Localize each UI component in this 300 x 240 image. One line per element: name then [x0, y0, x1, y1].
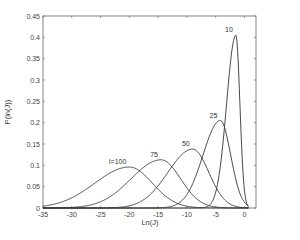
curve-label-50: 50 [182, 140, 190, 147]
x-tick-label: -25 [96, 211, 106, 218]
y-axis-ticks: 00.050.10.150.20.250.30.350.40.45 [26, 13, 256, 212]
y-axis-label: P(ln(J)) [3, 99, 12, 124]
x-tick-label: 0 [243, 211, 247, 218]
y-tick-label: 0.25 [26, 98, 40, 105]
y-tick-label: 0.35 [26, 55, 40, 62]
chart: -35-30-25-20-15-10-50 00.050.10.150.20.2… [0, 0, 300, 240]
y-tick-label: 0.2 [30, 119, 40, 126]
x-tick-label: -35 [38, 211, 48, 218]
curve-label-100: l=100 [109, 158, 126, 165]
curve-labels: 10255075l=100 [109, 26, 233, 165]
x-tick-label: -30 [67, 211, 77, 218]
y-tick-label: 0.15 [26, 141, 40, 148]
curve-label-75: 75 [150, 151, 158, 158]
x-tick-label: -20 [124, 211, 134, 218]
plot-frame [43, 16, 256, 208]
y-tick-label: 0.45 [26, 13, 40, 20]
x-axis-label: Ln(J) [141, 218, 159, 227]
y-tick-label: 0.1 [30, 162, 40, 169]
y-tick-label: 0.05 [26, 183, 40, 190]
curve-25 [43, 121, 249, 208]
y-tick-label: 0.3 [30, 77, 40, 84]
curve-50 [43, 149, 249, 208]
curve-100 [43, 167, 249, 208]
x-tick-label: -15 [153, 211, 163, 218]
y-tick-label: 0.4 [30, 34, 40, 41]
curve-label-25: 25 [210, 112, 218, 119]
curve-label-10: 10 [225, 26, 233, 33]
y-tick-label: 0 [36, 205, 40, 212]
x-tick-label: -10 [182, 211, 192, 218]
x-tick-label: -5 [213, 211, 219, 218]
curves [43, 35, 249, 208]
